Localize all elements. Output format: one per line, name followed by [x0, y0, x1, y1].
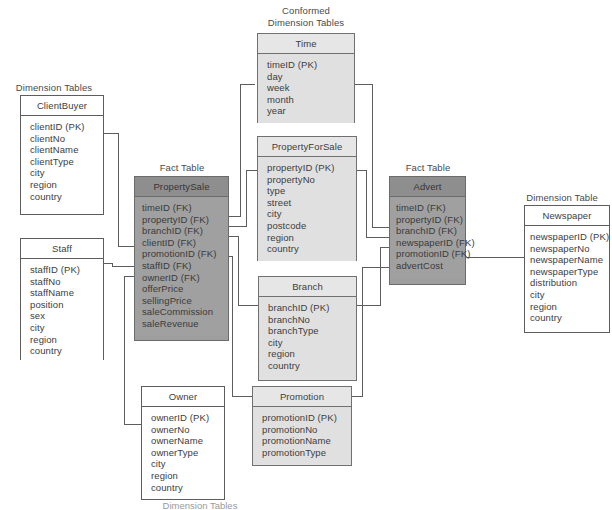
table-fields-property-for-sale: propertyID (PK) propertyNo type street c… [258, 157, 356, 261]
field: week [267, 82, 354, 94]
field: city [30, 322, 103, 334]
field: clientID (FK) [142, 237, 228, 249]
field: propertyID (FK) [396, 214, 465, 226]
table-promotion[interactable]: Promotion promotionID (PK) promotionNo p… [252, 386, 352, 466]
table-header-property-sale: PropertySale [135, 177, 228, 197]
field: newspaperType [530, 266, 609, 278]
field: saleRevenue [142, 318, 228, 330]
field: position [30, 299, 103, 311]
table-fields-property-sale: timeID (FK) propertyID (FK) branchID (FK… [135, 197, 228, 336]
field: staffID (PK) [30, 264, 103, 276]
caption-fact-table-left: Fact Table [134, 162, 230, 174]
field: staffNo [30, 276, 103, 288]
table-fields-time: timeID (PK) day week month year [258, 54, 354, 123]
field: clientNo [30, 133, 103, 145]
caption-conformed-dimension-tables: Conformed Dimension Tables [245, 5, 367, 28]
table-client-buyer[interactable]: ClientBuyer clientID (PK) clientNo clien… [20, 95, 104, 215]
field: year [267, 105, 354, 117]
field: region [268, 348, 356, 360]
table-header-time: Time [258, 34, 354, 54]
field: newspaperID (PK) [530, 231, 609, 243]
link-promotion-propertysale [229, 256, 252, 396]
link-staff-propertysale [103, 263, 134, 266]
field: type [267, 185, 356, 197]
field: ownerID (PK) [151, 412, 224, 424]
field: promotionType [262, 447, 351, 459]
field: clientName [30, 144, 103, 156]
table-header-property-for-sale: PropertyForSale [258, 137, 356, 157]
field: sex [30, 310, 103, 322]
table-header-branch: Branch [259, 277, 356, 297]
field: country [268, 360, 356, 372]
field: branchID (FK) [396, 225, 465, 237]
table-header-client-buyer: ClientBuyer [21, 96, 103, 116]
table-fields-newspaper: newspaperID (PK) newspaperNo newspaperNa… [525, 226, 609, 330]
table-fields-advert: timeID (FK) propertyID (FK) branchID (FK… [390, 197, 465, 278]
field: propertyNo [267, 174, 356, 186]
field: branchID (FK) [142, 225, 228, 237]
field: branchNo [268, 314, 356, 326]
field: staffName [30, 287, 103, 299]
field: month [267, 94, 354, 106]
field: country [267, 243, 356, 255]
field: city [530, 289, 609, 301]
table-header-advert: Advert [390, 177, 465, 197]
table-staff[interactable]: Staff staffID (PK) staffNo staffName pos… [20, 238, 104, 360]
link-propertyforsale-propertysale [229, 170, 257, 226]
link-clientbuyer-propertysale [103, 133, 134, 246]
link-propertyforsale-advert [357, 170, 389, 237]
field: staffID (FK) [142, 260, 228, 272]
field: promotionName [262, 435, 351, 447]
field: timeID (FK) [396, 202, 465, 214]
schema-diagram-canvas: Dimension Tables Conformed Dimension Tab… [0, 0, 612, 510]
table-time[interactable]: Time timeID (PK) day week month year [257, 33, 355, 123]
field: offerPrice [142, 283, 228, 295]
field: city [30, 167, 103, 179]
table-branch[interactable]: Branch branchID (PK) branchNo branchType… [258, 276, 357, 381]
field: city [267, 208, 356, 220]
caption-dimension-tables-left: Dimension Tables [6, 82, 102, 94]
field: postcode [267, 220, 356, 232]
table-advert[interactable]: Advert timeID (FK) propertyID (FK) branc… [389, 176, 466, 285]
field: city [151, 458, 224, 470]
field: country [30, 345, 103, 357]
field: region [530, 301, 609, 313]
table-header-newspaper: Newspaper [525, 206, 609, 226]
field: distribution [530, 277, 609, 289]
field: saleCommission [142, 306, 228, 318]
field: ownerID (FK) [142, 272, 228, 284]
field: region [30, 179, 103, 191]
field: ownerType [151, 447, 224, 459]
table-owner[interactable]: Owner ownerID (PK) ownerNo ownerName own… [141, 386, 225, 500]
table-newspaper[interactable]: Newspaper newspaperID (PK) newspaperNo n… [524, 205, 610, 333]
field: newspaperNo [530, 243, 609, 255]
field: clientID (PK) [30, 121, 103, 133]
link-branch-propertysale [229, 236, 258, 305]
field: street [267, 197, 356, 209]
field: ownerNo [151, 424, 224, 436]
field: newspaperName [530, 254, 609, 266]
field: city [268, 337, 356, 349]
table-property-for-sale[interactable]: PropertyForSale propertyID (PK) property… [257, 136, 357, 261]
field: promotionID (FK) [396, 248, 465, 260]
table-fields-client-buyer: clientID (PK) clientNo clientName client… [21, 116, 103, 208]
field: newspaperID (FK) [396, 237, 465, 249]
field: branchType [268, 325, 356, 337]
field: branchID (PK) [268, 302, 356, 314]
field: promotionNo [262, 424, 351, 436]
field: timeID (PK) [267, 59, 354, 71]
caption-dimension-tables-bottom: Dimension Tables [141, 500, 259, 510]
field: country [30, 191, 103, 203]
caption-dimension-table-right: Dimension Table [514, 192, 610, 204]
field: clientType [30, 156, 103, 168]
link-time-propertysale [229, 84, 255, 216]
field: country [530, 312, 609, 324]
table-header-staff: Staff [21, 239, 103, 259]
field: region [151, 470, 224, 482]
table-fields-promotion: promotionID (PK) promotionNo promotionNa… [253, 407, 351, 464]
table-header-owner: Owner [142, 387, 224, 407]
table-fields-staff: staffID (PK) staffNo staffName position … [21, 259, 103, 363]
link-time-advert [355, 84, 389, 227]
field: region [267, 232, 356, 244]
table-property-sale[interactable]: PropertySale timeID (FK) propertyID (FK)… [134, 176, 229, 341]
